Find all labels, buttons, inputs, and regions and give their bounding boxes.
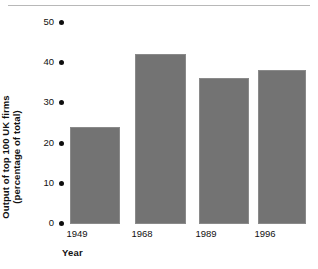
bar-chart-figure: Output of top 100 UK firms (percentage o… [0,0,318,269]
y-tick-dot-icon-40 [59,60,64,65]
y-tick-label-30: 30 [43,96,54,108]
y-axis-label-line1: Output of top 100 UK firms [0,95,11,218]
y-tick-dot-icon-10 [59,181,64,186]
x-tick-label-1949: 1949 [45,228,109,240]
x-tick-label-1989: 1989 [174,228,238,240]
y-axis-label-line2: (percentage of total) [11,95,22,218]
y-tick-label-20: 20 [43,137,54,149]
y-tick-label-50: 50 [43,16,54,28]
x-axis-label: Year [62,247,83,259]
x-tick-label-1996: 1996 [233,228,297,240]
plot-area [68,22,308,224]
bar-1989[interactable] [199,78,249,224]
bar-1949[interactable] [70,127,120,224]
y-tick-dot-icon-30 [59,100,64,105]
y-tick-20: 20 [24,137,64,149]
bar-1996[interactable] [258,70,306,224]
y-tick-label-40: 40 [43,56,54,68]
y-tick-dot-icon-20 [59,141,64,146]
y-tick-10: 10 [24,177,64,189]
y-tick-30: 30 [24,96,64,108]
y-tick-label-10: 10 [43,177,54,189]
bar-1968[interactable] [135,54,186,224]
y-axis-label: Output of top 100 UK firms (percentage o… [0,82,22,232]
top-divider-rule [8,5,310,6]
x-tick-label-1968: 1968 [110,228,174,240]
y-tick-dot-icon-0 [59,221,64,226]
y-tick-40: 40 [24,56,64,68]
y-tick-dot-icon-50 [59,20,64,25]
y-tick-50: 50 [24,16,64,28]
